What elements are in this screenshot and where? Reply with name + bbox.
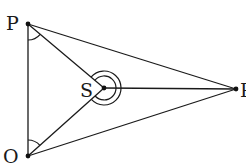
angle-mark-O	[28, 140, 40, 145]
segment-PR	[28, 24, 236, 89]
angle-mark-P	[28, 34, 40, 40]
label-R: R	[240, 79, 246, 101]
segment-OR	[28, 89, 236, 156]
vertex-S	[102, 86, 107, 91]
vertex-O	[26, 154, 31, 159]
label-P: P	[6, 12, 19, 34]
label-S: S	[80, 79, 93, 101]
label-O: O	[3, 145, 19, 164]
vertex-P	[26, 22, 31, 27]
segment-SR	[104, 88, 236, 89]
geometry-diagram: P O S R	[0, 0, 246, 164]
vertex-R	[234, 87, 239, 92]
